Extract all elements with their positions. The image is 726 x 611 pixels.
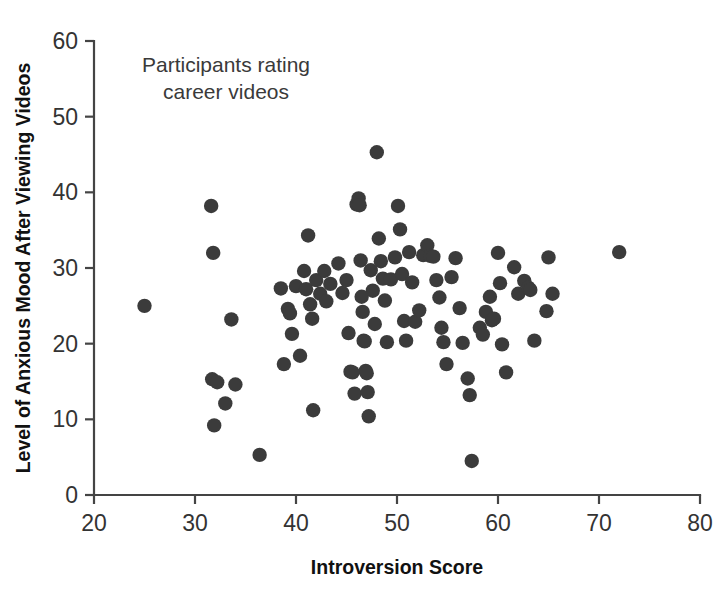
data-point [402, 245, 416, 259]
data-point [380, 335, 394, 349]
data-point [285, 327, 299, 341]
annotation-line-1: Participants rating [142, 53, 310, 76]
data-point [412, 303, 426, 317]
data-point [293, 349, 307, 363]
data-point [335, 286, 349, 300]
x-tick-label: 70 [586, 510, 612, 536]
y-tick-label: 20 [52, 331, 78, 357]
data-point [228, 377, 242, 391]
data-point [277, 357, 291, 371]
data-point [432, 290, 446, 304]
data-point [523, 283, 537, 297]
data-point [366, 284, 380, 298]
data-point [352, 198, 366, 212]
data-point [361, 385, 375, 399]
data-points-layer [137, 145, 626, 468]
data-point [483, 290, 497, 304]
data-point [399, 333, 413, 347]
data-point [374, 254, 388, 268]
data-point [210, 375, 224, 389]
data-point [370, 145, 384, 159]
data-point [461, 371, 475, 385]
y-tick-label: 0 [65, 482, 78, 508]
x-tick-label: 20 [81, 510, 107, 536]
scatter-chart: 0102030405060 20304050607080 Participant… [0, 0, 726, 611]
data-point [355, 305, 369, 319]
data-point [357, 334, 371, 348]
data-point [206, 246, 220, 260]
data-point [436, 335, 450, 349]
x-tick-label: 30 [182, 510, 208, 536]
data-point [491, 246, 505, 260]
data-point [218, 396, 232, 410]
y-tick-label: 40 [52, 179, 78, 205]
data-point [347, 386, 361, 400]
data-point [493, 276, 507, 290]
data-point [274, 281, 288, 295]
data-point [297, 264, 311, 278]
data-point [323, 277, 337, 291]
data-point [339, 273, 353, 287]
x-axis-ticks: 20304050607080 [81, 495, 713, 536]
data-point [204, 199, 218, 213]
x-tick-label: 50 [384, 510, 410, 536]
data-point [463, 388, 477, 402]
data-point [487, 312, 501, 326]
data-point [448, 251, 462, 265]
data-point [612, 245, 626, 259]
data-point [372, 231, 386, 245]
data-point [378, 293, 392, 307]
data-point [439, 357, 453, 371]
y-tick-label: 50 [52, 104, 78, 130]
y-axis-group: 0102030405060 [52, 28, 94, 508]
data-point [539, 304, 553, 318]
annotation-line-2: career videos [163, 80, 289, 103]
data-point [507, 260, 521, 274]
data-point [495, 337, 509, 351]
y-axis-title: Level of Anxious Mood After Viewing Vide… [12, 63, 34, 474]
data-point [476, 327, 490, 341]
data-point [137, 299, 151, 313]
data-point [405, 275, 419, 289]
data-point [388, 250, 402, 264]
data-point [341, 326, 355, 340]
data-point [331, 256, 345, 270]
data-point [368, 317, 382, 331]
y-axis-ticks: 0102030405060 [52, 28, 94, 508]
data-point [301, 228, 315, 242]
data-point [283, 306, 297, 320]
data-point [360, 366, 374, 380]
data-point [319, 294, 333, 308]
x-tick-label: 40 [283, 510, 309, 536]
data-point [303, 297, 317, 311]
data-point [455, 336, 469, 350]
plot-canvas: 0102030405060 20304050607080 Participant… [0, 0, 726, 611]
x-axis-group: 20304050607080 [81, 495, 713, 536]
x-axis-title: Introversion Score [311, 556, 483, 578]
data-point [317, 264, 331, 278]
data-point [429, 273, 443, 287]
data-point [362, 409, 376, 423]
x-tick-label: 60 [485, 510, 511, 536]
data-point [393, 222, 407, 236]
data-point [541, 250, 555, 264]
data-point [224, 312, 238, 326]
data-point [426, 249, 440, 263]
data-point [306, 403, 320, 417]
data-point [452, 301, 466, 315]
data-point [465, 454, 479, 468]
data-point [499, 365, 513, 379]
y-tick-label: 10 [52, 406, 78, 432]
data-point [527, 333, 541, 347]
data-point [444, 270, 458, 284]
y-tick-label: 60 [52, 28, 78, 54]
data-point [207, 418, 221, 432]
data-point [252, 448, 266, 462]
data-point [434, 321, 448, 335]
data-point [391, 199, 405, 213]
y-tick-label: 30 [52, 255, 78, 281]
x-tick-label: 80 [687, 510, 713, 536]
annotation-group: Participants rating career videos [142, 53, 310, 103]
data-point [345, 365, 359, 379]
data-point [545, 287, 559, 301]
